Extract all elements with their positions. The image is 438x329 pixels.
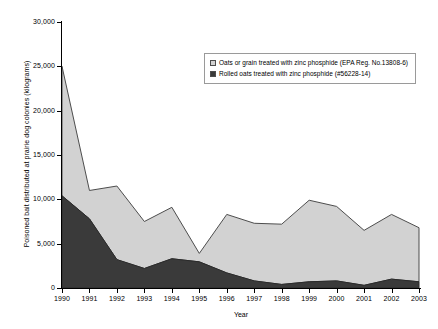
y-axis-title: Poisoned bait distributed at prairie dog… bbox=[23, 39, 31, 269]
x-axis-tick bbox=[144, 289, 145, 293]
area-series-oats-or-grain bbox=[62, 66, 419, 285]
x-axis-tick bbox=[282, 289, 283, 293]
x-axis-tick bbox=[62, 289, 63, 293]
x-axis-tick bbox=[172, 289, 173, 293]
x-axis-tick bbox=[337, 289, 338, 293]
legend-item-oats-or-grain: Oats or grain treated with zinc phosphid… bbox=[210, 59, 411, 67]
x-axis-title: Year bbox=[62, 311, 420, 319]
x-axis-tick bbox=[199, 289, 200, 293]
legend-swatch-light-icon bbox=[210, 60, 216, 66]
legend-label-rolled-oats: Rolled oats treated with zinc phosphide … bbox=[219, 70, 370, 78]
y-axis-line bbox=[61, 21, 62, 289]
x-axis-tick bbox=[227, 289, 228, 293]
x-axis-line bbox=[61, 288, 421, 289]
legend-item-rolled-oats: Rolled oats treated with zinc phosphide … bbox=[210, 70, 411, 78]
y-axis-tick bbox=[57, 22, 61, 23]
y-axis-tick bbox=[57, 66, 61, 67]
x-axis-tick bbox=[309, 289, 310, 293]
chart-legend: Oats or grain treated with zinc phosphid… bbox=[204, 53, 416, 84]
legend-swatch-dark-icon bbox=[210, 71, 216, 77]
y-axis-tick-label: 30,000 bbox=[5, 18, 55, 25]
x-axis-tick bbox=[364, 289, 365, 293]
legend-label-oats-or-grain: Oats or grain treated with zinc phosphid… bbox=[219, 59, 408, 67]
x-axis-tick bbox=[419, 289, 420, 293]
y-axis-tick bbox=[57, 288, 61, 289]
x-axis-tick bbox=[89, 289, 90, 293]
x-axis-tick bbox=[117, 289, 118, 293]
y-axis-tick-label: 0 bbox=[5, 284, 55, 291]
x-axis-tick-label: 2003 bbox=[402, 295, 436, 303]
y-axis-tick bbox=[57, 244, 61, 245]
y-axis-tick bbox=[57, 111, 61, 112]
chart-figure: 05,00010,00015,00020,00025,00030,000 199… bbox=[0, 0, 438, 329]
x-axis-tick bbox=[392, 289, 393, 293]
x-axis-tick bbox=[254, 289, 255, 293]
y-axis-tick bbox=[57, 199, 61, 200]
y-axis-tick bbox=[57, 155, 61, 156]
